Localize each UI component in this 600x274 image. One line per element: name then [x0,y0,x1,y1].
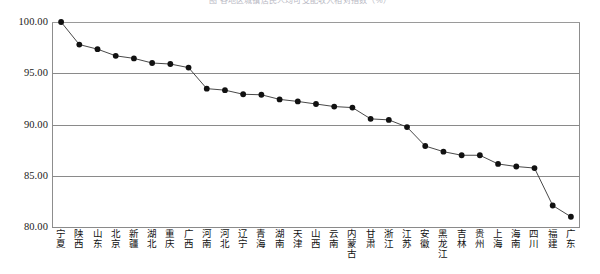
data-point-marker [240,91,246,97]
x-axis-tick-char: 北 [218,239,232,249]
data-point-marker [58,19,64,25]
data-point-marker [513,164,519,170]
y-axis-tick-label: 95.00 [4,68,48,78]
x-axis-tick-label: 四川 [527,229,541,249]
x-axis-tick-char: 南 [200,239,214,249]
x-axis-tick-label: 山东 [91,229,105,249]
y-axis: 80.0085.0090.0095.00100.00 [0,0,48,274]
data-point-marker [368,116,374,122]
x-axis-tick-char: 林 [455,239,469,249]
data-point-marker [295,99,301,105]
x-axis-tick-char: 南 [273,239,287,249]
x-axis-tick-label: 海南 [509,229,523,249]
data-point-marker [186,65,192,71]
x-axis-tick-char: 西 [182,239,196,249]
x-axis-tick-char: 东 [91,239,105,249]
x-axis-tick-label: 河南 [200,229,214,249]
data-point-marker [149,60,155,66]
data-point-marker [222,87,228,93]
y-axis-tick-label: 90.00 [4,120,48,130]
x-axis-tick-label: 江苏 [400,229,414,249]
x-axis-tick-char: 建 [546,239,560,249]
x-axis-tick-label: 北京 [109,229,123,249]
x-axis-tick-char: 津 [291,239,305,249]
x-axis-tick-label: 云南 [327,229,341,249]
data-point-marker [441,149,447,155]
x-axis-tick-label: 吉林 [455,229,469,249]
x-axis-tick-char: 徽 [418,239,432,249]
data-point-marker [76,42,82,48]
data-point-marker [350,105,356,111]
x-axis-tick-char: 江 [436,249,450,259]
x-axis-tick-char: 南 [509,239,523,249]
x-axis-tick-char: 江 [382,239,396,249]
x-axis-tick-label: 重庆 [163,229,177,249]
data-point-marker [477,152,483,158]
x-axis-tick-label: 新疆 [127,229,141,249]
x-axis-tick-label: 上海 [491,229,505,249]
x-axis-tick-char: 州 [473,239,487,249]
data-point-marker [568,214,574,220]
chart-container: 图 各地区城镇居民人均可支配收入相对指数（%） 80.0085.0090.009… [0,0,600,274]
x-axis-tick-label: 安徽 [418,229,432,249]
y-axis-tick-label: 85.00 [4,171,48,181]
x-axis-tick-label: 青海 [254,229,268,249]
x-axis-tick-label: 广西 [182,229,196,249]
x-axis-tick-label: 内蒙古 [345,229,359,258]
data-point-marker [313,101,319,107]
x-axis-tick-char: 南 [327,239,341,249]
x-axis-tick-char: 夏 [54,239,68,249]
data-point-marker [131,55,137,61]
data-point-marker [167,61,173,67]
x-axis-tick-label: 湖北 [145,229,159,249]
x-axis-tick-label: 甘肃 [364,229,378,249]
data-point-marker [95,46,101,52]
x-axis-tick-label: 天津 [291,229,305,249]
chart-title: 图 各地区城镇居民人均可支配收入相对指数（%） [0,0,600,6]
x-axis-tick-label: 宁夏 [54,229,68,249]
x-axis-tick-char: 京 [109,239,123,249]
x-axis-tick-label: 陕西 [72,229,86,249]
x-axis-tick-char: 古 [345,249,359,259]
x-axis-tick-label: 湖南 [273,229,287,249]
y-axis-tick-label: 100.00 [4,17,48,27]
x-axis-tick-char: 肃 [364,239,378,249]
x-axis: 宁夏陕西山东北京新疆湖北重庆广西河南河北辽宁青海湖南天津山西云南内蒙古甘肃浙江江… [52,229,580,274]
series-line [61,22,571,217]
data-point-marker [495,161,501,167]
data-point-marker [422,143,428,149]
data-point-marker [386,117,392,123]
x-axis-tick-char: 东 [564,239,578,249]
x-axis-tick-char: 宁 [236,239,250,249]
y-axis-tick-label: 80.00 [4,222,48,232]
data-point-marker [277,96,283,102]
data-point-marker [550,203,556,209]
x-axis-tick-char: 苏 [400,239,414,249]
x-axis-tick-char: 疆 [127,239,141,249]
data-point-marker [459,152,465,158]
x-axis-tick-label: 贵州 [473,229,487,249]
x-axis-tick-char: 川 [527,239,541,249]
x-axis-tick-char: 海 [254,239,268,249]
x-axis-tick-char: 西 [309,239,323,249]
x-axis-tick-char: 海 [491,239,505,249]
data-point-marker [204,86,210,92]
x-axis-tick-char: 西 [72,239,86,249]
plot-area [52,22,580,227]
x-axis-tick-label: 广东 [564,229,578,249]
data-point-marker [532,165,538,171]
data-point-marker [331,104,337,110]
x-axis-tick-char: 庆 [163,239,177,249]
x-axis-tick-label: 浙江 [382,229,396,249]
x-axis-tick-label: 河北 [218,229,232,249]
data-point-marker [404,124,410,130]
data-point-marker [258,92,264,98]
x-axis-tick-label: 黑龙江 [436,229,450,258]
x-axis-tick-char: 北 [145,239,159,249]
x-axis-tick-label: 山西 [309,229,323,249]
x-axis-tick-label: 福建 [546,229,560,249]
data-point-marker [113,53,119,59]
x-axis-tick-label: 辽宁 [236,229,250,249]
data-series-line [52,22,580,227]
